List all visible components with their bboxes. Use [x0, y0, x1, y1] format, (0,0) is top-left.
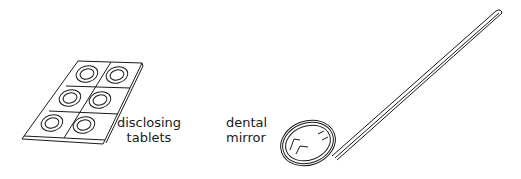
disclosing-tablets-label-line-2: tablets [112, 130, 186, 145]
dental-mirror-label-line-1: dental [226, 115, 272, 130]
dental-mirror-label-line-2: mirror [226, 130, 272, 145]
illustration-canvas [0, 0, 521, 179]
dental-mirror-label: dental mirror [226, 115, 272, 145]
dental-mirror-icon [274, 10, 502, 173]
disclosing-tablets-label-line-1: disclosing [112, 115, 186, 130]
disclosing-tablets-label: disclosing tablets [112, 115, 186, 145]
